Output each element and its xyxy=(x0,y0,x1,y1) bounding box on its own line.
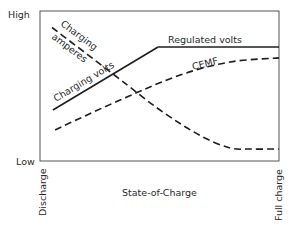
series-line-cemf xyxy=(55,58,279,130)
series-label-regulated-volts: Regulated volts xyxy=(168,34,242,45)
y-tick-label-high: High xyxy=(8,9,30,20)
x-tick-label-discharge: Discharge xyxy=(37,168,48,216)
x-axis-label: State-of-Charge xyxy=(122,187,197,198)
series-label-charging-volts: Charging volts xyxy=(51,59,116,104)
x-tick-label-full-charge: Full charge xyxy=(273,169,284,221)
y-tick-label-low: Low xyxy=(16,156,35,167)
series-label-cemf: CEMF xyxy=(191,55,219,72)
series-line-charging-volts xyxy=(53,47,158,110)
chart: High Low Discharge Full charge State-of-… xyxy=(0,0,294,240)
